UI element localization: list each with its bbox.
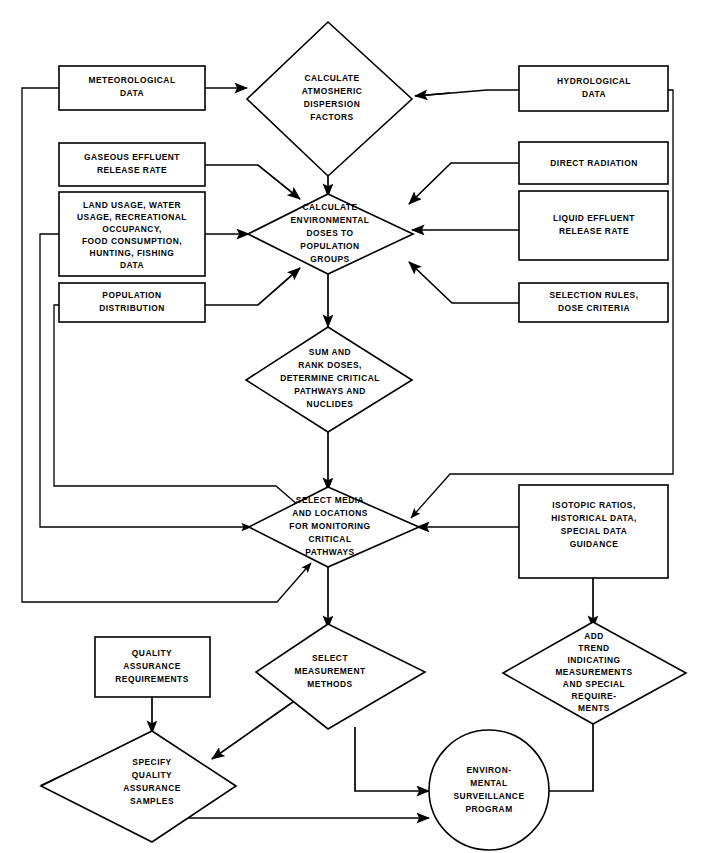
node-label-line: USAGE, RECREATIONAL <box>77 212 187 222</box>
node-label-line: PATHWAYS AND <box>294 386 366 396</box>
node-land-usage-data[interactable]: LAND USAGE, WATERUSAGE, RECREATIONALOCCU… <box>59 192 205 276</box>
node-label-line: QUALITY <box>132 648 172 658</box>
node-label-line: FOR MONITORING <box>289 521 370 531</box>
node-label-line: CALCULATE <box>302 202 357 212</box>
node-label-line: PROGRAM <box>465 804 512 814</box>
node-label-line: RANK DOSES, <box>298 360 362 370</box>
node-label-line: DATA <box>120 88 144 98</box>
node-label-line: DOSES TO <box>306 228 353 238</box>
node-select-media[interactable]: SELECT MEDIAAND LOCATIONSFOR MONITORINGC… <box>249 487 419 567</box>
node-label-line: ISOTOPIC RATIOS, <box>552 500 636 510</box>
flowchart-svg: METEOROLOGICALDATA CALCULATEATMOSHERICDI… <box>0 0 728 853</box>
node-label-line: NUCLIDES <box>307 399 354 409</box>
node-label-line: LAND USAGE, WATER <box>83 200 181 210</box>
node-label-line: DOSE CRITERIA <box>558 303 630 313</box>
edge-hydro-to-atmospheric-arrow <box>415 93 450 96</box>
node-quality-assurance-req[interactable]: QUALITYASSURANCEREQUIREMENTS <box>95 637 210 697</box>
node-label-line: TREND <box>578 643 609 653</box>
edge-population-to-env <box>205 268 300 305</box>
node-label-line: SELECT MEDIA <box>296 495 364 505</box>
node-label-line: DATA <box>120 260 144 270</box>
node-label-line: OCCUPANCY, <box>102 224 162 234</box>
node-environmental-program[interactable]: ENVIRON-MENTALSURVEILLANCEPROGRAM <box>429 730 549 850</box>
node-gaseous-effluent[interactable]: GASEOUS EFFLUENTRELEASE RATE <box>59 143 205 186</box>
node-label-line: SELECT <box>312 653 348 663</box>
node-label-line: DETERMINE CRITICAL <box>280 373 380 383</box>
svg-text:DIRECT RADIATION: DIRECT RADIATION <box>550 158 637 168</box>
node-label-line: ASSURANCE <box>123 783 181 793</box>
node-liquid-effluent[interactable]: LIQUID EFFLUENTRELEASE RATE <box>519 191 668 260</box>
node-add-trend[interactable]: ADDTRENDINDICATINGMEASUREMENTSAND SPECIA… <box>503 622 686 724</box>
node-hydrological-data[interactable]: HYDROLOGICALDATA <box>519 66 668 111</box>
node-label-line: REQUIRE- <box>572 691 617 701</box>
edge-gaseous-to-env <box>205 165 300 199</box>
node-label-line: METEOROLOGICAL <box>88 75 175 85</box>
node-label-line: DIRECT RADIATION <box>550 158 637 168</box>
node-label-line: MEASUREMENT <box>294 666 365 676</box>
node-label-line: CALCULATE <box>304 73 359 83</box>
node-label-line: PATHWAYS <box>305 547 354 557</box>
node-label-line: SUM AND <box>309 347 351 357</box>
edge-measurement-to-program <box>355 727 429 791</box>
node-calculate-environmental[interactable]: CALCULATEENVIRONMENTALDOSES TOPOPULATION… <box>248 194 413 274</box>
node-label-line: DATA <box>582 89 606 99</box>
node-label-line: ENVIRON- <box>467 765 512 775</box>
node-direct-radiation[interactable]: DIRECT RADIATION <box>519 142 668 184</box>
node-label-line: ATMOSHERIC <box>302 86 363 96</box>
node-label-line: INDICATING <box>567 655 620 665</box>
node-selection-rules[interactable]: SELECTION RULES,DOSE CRITERIA <box>519 283 668 322</box>
flowchart-canvas: METEOROLOGICALDATA CALCULATEATMOSHERICDI… <box>0 0 728 853</box>
node-label-line: GROUPS <box>310 254 349 264</box>
node-label-line: HISTORICAL DATA, <box>551 513 637 523</box>
node-population-distribution[interactable]: POPULATIONDISTRIBUTION <box>59 283 205 322</box>
node-label-line: REQUIREMENTS <box>115 674 188 684</box>
edge-population-fb-to-media <box>54 305 313 518</box>
node-label-line: GASEOUS EFFLUENT <box>84 152 180 162</box>
node-select-measurement[interactable]: SELECTMEASUREMENTMETHODS <box>256 624 425 729</box>
node-label-line: CRITICAL <box>308 534 351 544</box>
node-label-line: ADD <box>584 631 604 641</box>
node-label-line: MENTS <box>578 703 610 713</box>
node-label-line: ASSURANCE <box>123 661 181 671</box>
node-label-line: SPECIAL DATA <box>561 526 628 536</box>
node-label-line: QUALITY <box>132 770 172 780</box>
node-label-line: HUNTING, FISHING <box>90 248 175 258</box>
node-label-line: SAMPLES <box>130 796 174 806</box>
node-sum-and-rank[interactable]: SUM ANDRANK DOSES,DETERMINE CRITICALPATH… <box>246 327 412 432</box>
node-label-line: LIQUID EFFLUENT <box>553 213 635 223</box>
node-label-line: GUIDANCE <box>570 539 619 549</box>
node-label-line: AND LOCATIONS <box>292 508 368 518</box>
node-label-line: SPECIFY <box>132 757 171 767</box>
node-label-line: RELEASE RATE <box>97 165 167 175</box>
node-label-line: DISTRIBUTION <box>99 303 165 313</box>
node-label-line: POPULATION <box>102 290 161 300</box>
node-label-line: RELEASE RATE <box>559 226 629 236</box>
node-label-line: MEASUREMENTS <box>555 667 632 677</box>
node-label-line: METHODS <box>307 679 352 689</box>
edge-land-feedback-to-media <box>40 234 251 527</box>
node-label-line: HYDROLOGICAL <box>557 76 631 86</box>
node-calculate-atmospheric[interactable]: CALCULATEATMOSHERICDISPERSIONFACTORS <box>247 22 412 176</box>
node-specify-qa-samples[interactable]: SPECIFYQUALITYASSURANCESAMPLES <box>41 731 236 842</box>
edge-selection-rules-to-env <box>409 262 519 303</box>
node-label-line: SELECTION RULES, <box>550 290 639 300</box>
node-label-line: SURVEILLANCE <box>454 791 525 801</box>
node-label-line: ENVIRONMENTAL <box>291 215 370 225</box>
edge-direct-rad-to-env <box>409 163 519 204</box>
node-label-line: FOOD CONSUMPTION, <box>82 236 182 246</box>
edge-measurement-to-specify <box>212 697 300 759</box>
node-isotopic-ratios[interactable]: ISOTOPIC RATIOS,HISTORICAL DATA,SPECIAL … <box>519 485 668 578</box>
node-label-line: FACTORS <box>310 112 353 122</box>
node-label-line: AND SPECIAL <box>563 679 625 689</box>
node-label-line: MENTAL <box>470 778 507 788</box>
node-label-line: DISPERSION <box>304 99 361 109</box>
node-meteorological-data[interactable]: METEOROLOGICALDATA <box>59 66 205 110</box>
node-label-line: POPULATION <box>300 241 359 251</box>
